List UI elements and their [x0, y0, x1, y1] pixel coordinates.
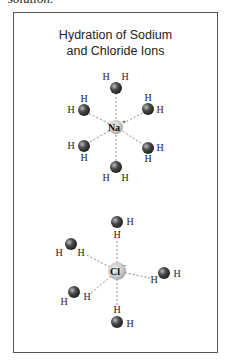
hydrogen-label: H: [113, 304, 120, 315]
water-molecule: H H: [150, 267, 180, 285]
hydrogen-label: H: [67, 104, 74, 115]
oxygen-atom: [110, 161, 122, 173]
oxygen-atom: [65, 238, 77, 250]
water-molecule: H H: [55, 238, 84, 258]
oxygen-atom: [78, 104, 90, 116]
hydrogen-label: H: [83, 291, 90, 302]
hydrogen-label: H: [156, 142, 163, 153]
oxygen-atom: [111, 316, 123, 328]
hydrogen-label: H: [77, 247, 84, 258]
oxygen-atom: [142, 103, 154, 115]
sodium-hydration-group: H H H H H H H H H H H H: [67, 71, 163, 183]
hydrogen-label: H: [144, 92, 151, 103]
hydrogen-label: H: [55, 247, 62, 258]
water-molecule: H H: [142, 142, 164, 164]
water-molecule: H H: [67, 93, 90, 116]
hydrogen-label: H: [80, 93, 87, 104]
chloride-hydration-group: H H H H H H H H H H Cl −: [55, 216, 180, 329]
water-molecule: H H: [111, 216, 134, 240]
water-molecule: H H: [142, 92, 164, 115]
hydrogen-label: H: [173, 268, 180, 279]
hydrogen-label: H: [126, 318, 133, 329]
water-molecule: H H: [102, 71, 128, 94]
water-molecule: H H: [60, 286, 90, 307]
hydrogen-label: H: [113, 229, 120, 240]
sodium-symbol: Na: [108, 122, 120, 133]
hydrogen-label: H: [121, 71, 128, 82]
hydrogen-label: H: [156, 104, 163, 115]
oxygen-atom: [78, 140, 90, 152]
chloride-symbol: Cl: [110, 266, 120, 277]
hydrogen-label: H: [150, 274, 157, 285]
hydrogen-label: H: [80, 152, 87, 163]
hydrogen-label: H: [102, 71, 109, 82]
hydrogen-label: H: [60, 296, 67, 307]
hydrogen-label: H: [121, 172, 128, 183]
water-molecule: H H: [67, 140, 90, 163]
hydrogen-label: H: [67, 140, 74, 151]
water-molecule: H H: [102, 161, 128, 183]
hydration-diagram: H H H H H H H H H H H H: [0, 0, 230, 363]
chloride-charge: −: [123, 262, 127, 270]
sodium-charge: +: [122, 118, 126, 126]
oxygen-atom: [110, 82, 122, 94]
hydrogen-label: H: [144, 153, 151, 164]
hydrogen-label: H: [102, 172, 109, 183]
water-molecule: H H: [111, 304, 134, 329]
oxygen-atom: [158, 267, 170, 279]
oxygen-atom: [68, 286, 80, 298]
oxygen-atom: [111, 216, 123, 228]
hydrogen-label: H: [126, 216, 133, 227]
